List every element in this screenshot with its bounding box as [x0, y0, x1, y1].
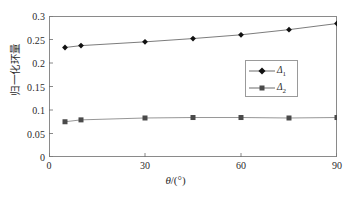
data-point [142, 39, 148, 45]
legend-item-delta2: Δ2 [246, 79, 297, 97]
x-tick-label: 0 [47, 160, 52, 171]
x-axis-label-slash: /( [171, 174, 178, 186]
y-axis-label: 归一化环量 [7, 20, 22, 120]
y-tick-label: 0.05 [27, 128, 45, 139]
x-tick-label: 60 [236, 160, 246, 171]
x-axis-label: θ/(°) [0, 174, 351, 186]
y-tick-label: 0.1 [32, 105, 45, 116]
x-tick-label: 30 [140, 160, 150, 171]
data-point [78, 43, 84, 49]
y-tick-label: 0.2 [32, 58, 45, 69]
data-point [191, 115, 196, 120]
data-point [190, 36, 196, 42]
legend-swatch-square-icon [249, 82, 275, 94]
data-point [334, 21, 337, 27]
y-tick-label: 0.3 [32, 11, 45, 22]
y-tick-label: 0.25 [27, 34, 45, 45]
legend-swatch-diamond-icon [249, 65, 275, 77]
data-point [238, 32, 244, 38]
legend-item-delta1: Δ1 [246, 62, 297, 80]
x-tick-label: 90 [332, 160, 342, 171]
data-point [62, 45, 68, 51]
data-point [287, 115, 292, 120]
data-point [63, 119, 68, 124]
legend-label-delta1: Δ1 [277, 65, 286, 78]
chart-legend: Δ1 Δ2 [245, 60, 298, 97]
x-axis-label-close: ) [182, 174, 186, 186]
y-tick-label: 0.15 [27, 81, 45, 92]
data-point [335, 115, 338, 120]
data-point [79, 117, 84, 122]
data-point [239, 115, 244, 120]
legend-label-delta2: Δ2 [277, 82, 286, 95]
data-point [143, 115, 148, 120]
data-point [286, 27, 292, 33]
chart-figure: 00.050.10.150.20.250.3 0306090 归一化环量 θ/(… [0, 0, 351, 197]
